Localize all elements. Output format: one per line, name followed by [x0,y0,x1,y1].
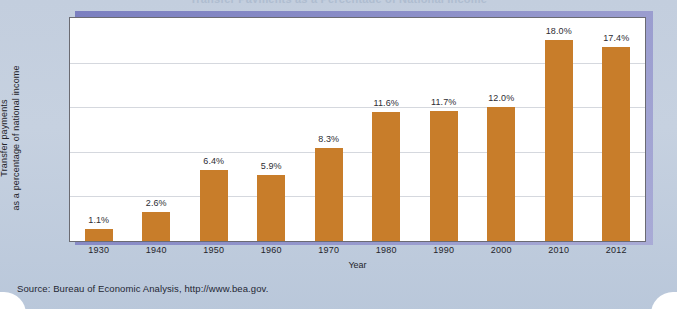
bar-value-label: 1.1% [88,215,109,225]
bar-group[interactable]: 18.0% [545,18,573,241]
figure-panel: Transfer Payments as a Percentage of Nat… [0,0,677,318]
y-axis-title-line2: as a percentage of national income [10,38,22,238]
bar-group[interactable]: 5.9% [257,18,285,241]
bar-group[interactable]: 8.3% [315,18,343,241]
bar-group[interactable]: 12.0% [487,18,515,241]
bar-group[interactable]: 2.6% [142,18,170,241]
x-tick-label: 1990 [424,245,464,255]
x-tick-label: 1980 [366,245,406,255]
bar-series: 1.1%2.6%6.4%5.9%8.3%11.6%11.7%12.0%18.0%… [70,18,645,241]
chart-plot-frame: 1.1%2.6%6.4%5.9%8.3%11.6%11.7%12.0%18.0%… [69,17,646,242]
bar-value-label: 11.7% [431,97,456,107]
bar-group[interactable]: 17.4% [602,18,630,241]
bar[interactable] [315,148,343,241]
bar-value-label: 11.6% [374,98,399,108]
bar-value-label: 6.4% [203,156,224,166]
bar[interactable] [257,175,285,241]
bar[interactable] [487,107,515,241]
bar-value-label: 18.0% [546,26,572,36]
bar-group[interactable]: 11.7% [430,18,458,241]
x-tick-label: 2000 [481,245,521,255]
panel-bottom-edge [0,309,677,318]
x-tick-label: 1940 [136,245,176,255]
x-tick-label: 2010 [539,245,579,255]
x-axis-tick-labels: 1930194019501960197019801990200020102012 [69,245,646,259]
bar[interactable] [430,111,458,241]
x-tick-label: 2012 [596,245,636,255]
y-axis-title-line1: Transfer payments [0,38,10,238]
y-axis-title: Transfer payments as a percentage of nat… [0,38,60,238]
plot-area: 1.1%2.6%6.4%5.9%8.3%11.6%11.7%12.0%18.0%… [70,18,645,241]
bar[interactable] [602,47,630,241]
bar-value-label: 12.0% [488,93,514,103]
bar-group[interactable]: 6.4% [200,18,228,241]
bar-group[interactable]: 11.6% [372,18,400,241]
panel-corner-right [651,292,677,318]
figure-title: Transfer Payments as a Percentage of Nat… [0,0,677,3]
x-tick-label: 1930 [79,245,119,255]
bar-group[interactable]: 1.1% [85,18,113,241]
bar-value-label: 17.4% [603,33,629,43]
bar[interactable] [85,229,113,241]
x-tick-label: 1970 [309,245,349,255]
x-tick-label: 1950 [194,245,234,255]
bar[interactable] [545,40,573,241]
bar-value-label: 2.6% [146,198,167,208]
bar-value-label: 5.9% [261,161,282,171]
bar-value-label: 8.3% [318,134,339,144]
source-note: Source: Bureau of Economic Analysis, htt… [17,283,269,294]
bar[interactable] [372,112,400,241]
bar[interactable] [200,170,228,241]
bar[interactable] [142,212,170,241]
panel-corner-left [0,292,26,318]
x-tick-label: 1960 [251,245,291,255]
x-axis-title: Year [69,260,646,270]
